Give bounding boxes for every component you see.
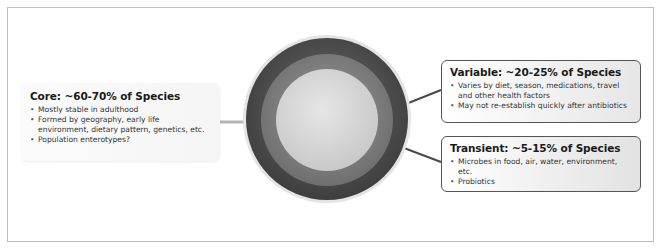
variable-bullet: May not re-establish quickly after antib… bbox=[450, 101, 632, 111]
core-callout: Core: ~60-70% of Species Mostly stable i… bbox=[22, 83, 220, 161]
transient-bullet: Microbes in food, air, water, environmen… bbox=[450, 157, 632, 177]
microbiome-rings-diagram bbox=[242, 34, 412, 204]
core-bullets: Mostly stable in adulthood Formed by geo… bbox=[30, 105, 212, 145]
core-title: Core: ~60-70% of Species bbox=[30, 90, 212, 102]
transient-bullets: Microbes in food, air, water, environmen… bbox=[450, 157, 632, 187]
core-bullet: Formed by geography, early life environm… bbox=[30, 115, 212, 135]
variable-bullet: Varies by diet, season, medications, tra… bbox=[450, 81, 632, 101]
core-bullet: Mostly stable in adulthood bbox=[30, 105, 212, 115]
variable-bullets: Varies by diet, season, medications, tra… bbox=[450, 81, 632, 111]
core-circle bbox=[276, 69, 378, 171]
core-bullet: Population enterotypes? bbox=[30, 135, 212, 145]
transient-title: Transient: ~5-15% of Species bbox=[450, 142, 632, 154]
transient-callout: Transient: ~5-15% of Species Microbes in… bbox=[441, 136, 641, 192]
variable-callout: Variable: ~20-25% of Species Varies by d… bbox=[441, 60, 641, 123]
variable-title: Variable: ~20-25% of Species bbox=[450, 66, 632, 78]
transient-bullet: Probiotics bbox=[450, 177, 632, 187]
